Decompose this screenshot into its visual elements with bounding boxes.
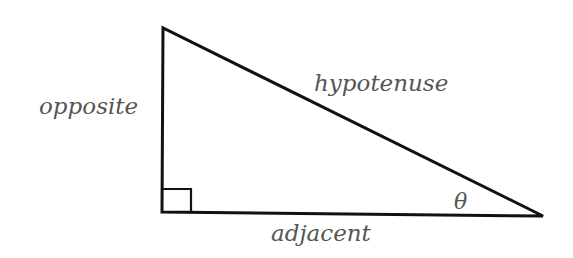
adjacent-label: adjacent <box>271 220 372 246</box>
theta-angle-label: θ <box>454 189 467 214</box>
triangle <box>162 28 543 216</box>
right-triangle-diagram: opposite hypotenuse adjacent θ <box>0 0 573 258</box>
opposite-label: opposite <box>39 93 138 119</box>
hypotenuse-label: hypotenuse <box>314 70 448 96</box>
right-angle-marker <box>162 189 191 212</box>
